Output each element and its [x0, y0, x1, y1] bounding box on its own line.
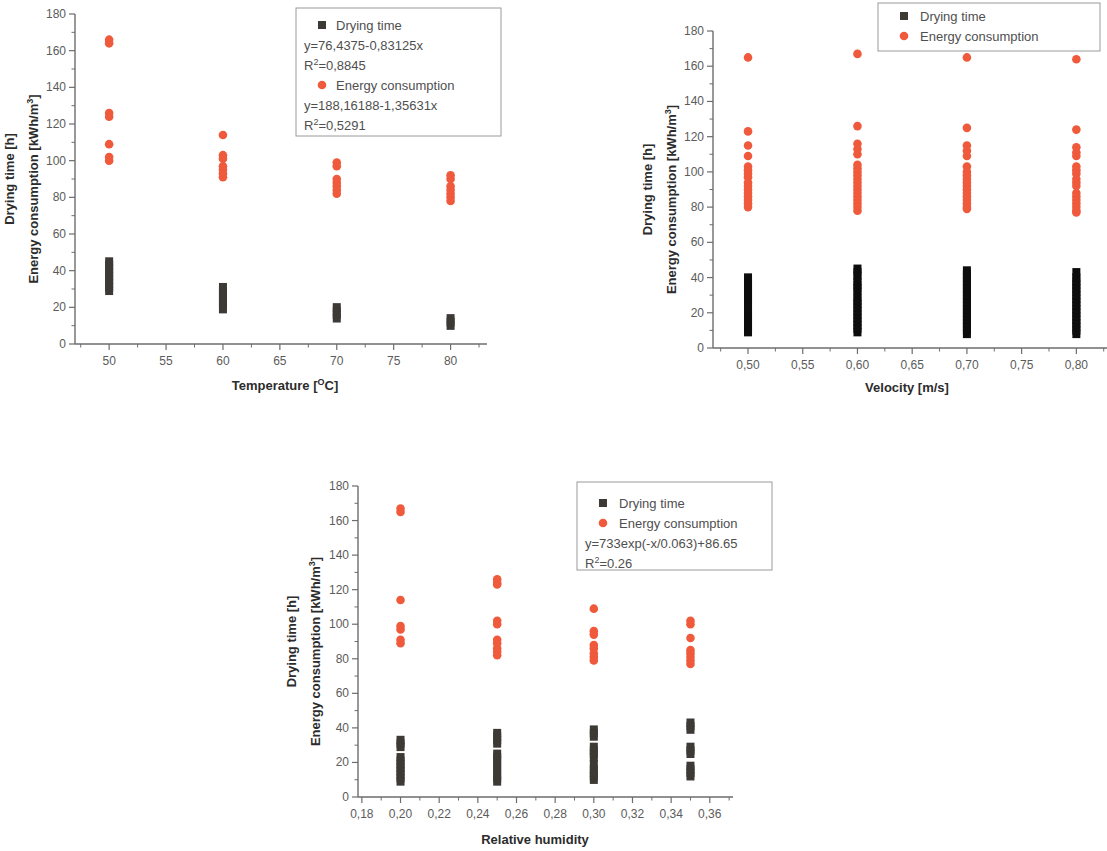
y-axis: 020406080100120140160180	[46, 7, 75, 351]
y-tick-label: 60	[691, 235, 705, 249]
y-tick-label: 120	[46, 117, 66, 131]
data-point	[853, 150, 862, 159]
legend-marker-circle	[900, 32, 909, 41]
legend-label: Energy consumption	[619, 516, 738, 531]
data-point	[219, 131, 228, 140]
y-tick-label: 80	[691, 200, 705, 214]
data-point	[590, 725, 598, 733]
x-tick-label: 0,18	[350, 807, 374, 821]
x-tick-label: 55	[159, 354, 173, 368]
data-point	[744, 203, 753, 212]
y-tick-label: 140	[329, 548, 349, 562]
y-axis-title-right: Energy consumption [kWh/m3]	[663, 105, 679, 294]
data-point	[105, 257, 113, 265]
series-energy-consumption	[744, 50, 1081, 217]
data-point	[853, 206, 862, 215]
y-tick-label: 140	[684, 94, 704, 108]
data-point	[590, 630, 599, 639]
data-point	[590, 743, 598, 751]
y-tick-label: 0	[342, 790, 349, 804]
data-point	[493, 729, 501, 737]
x-tick-label: 80	[444, 354, 458, 368]
data-point	[744, 273, 752, 281]
data-point	[686, 719, 694, 727]
legend-annotation: R2=0,5291	[304, 117, 366, 133]
data-point	[1072, 268, 1080, 276]
y-axis: 020406080100120140160180	[329, 479, 358, 804]
data-point	[963, 205, 972, 214]
y-tick-label: 60	[336, 686, 350, 700]
y-tick-label: 160	[684, 59, 704, 73]
data-point	[1072, 208, 1081, 217]
y-tick-label: 120	[329, 583, 349, 597]
data-point	[493, 750, 501, 758]
x-tick-label: 0,75	[1010, 358, 1034, 372]
data-point	[396, 508, 405, 517]
series-drying-time	[105, 257, 454, 330]
x-axis: 50556065707580	[75, 344, 487, 368]
data-point	[333, 303, 341, 311]
x-tick-label: 0,36	[698, 807, 722, 821]
x-tick-label: 0,22	[428, 807, 452, 821]
data-point	[105, 140, 114, 149]
data-point	[493, 580, 502, 589]
data-point	[686, 762, 694, 770]
y-tick-label: 100	[684, 165, 704, 179]
chart-humidity-canvas: 0204060801001201401601800,180,200,220,24…	[280, 470, 800, 851]
y-axis-title-right: Energy consumption [kWh/m3]	[307, 557, 323, 746]
y-tick-label: 180	[329, 479, 349, 493]
legend-label: Drying time	[920, 9, 986, 24]
y-tick-label: 20	[691, 306, 705, 320]
data-points-layer	[744, 50, 1081, 339]
data-point	[686, 660, 695, 669]
data-point	[219, 283, 227, 291]
x-tick-label: 0,80	[1065, 358, 1089, 372]
y-tick-label: 180	[684, 24, 704, 38]
data-point	[744, 141, 753, 150]
y-axis-title-left: Drying time [h]	[640, 144, 655, 236]
legend: Drying timey=76,4375-0,83125xR2=0,8845En…	[296, 8, 501, 136]
y-tick-label: 100	[46, 154, 66, 168]
data-point	[397, 736, 405, 744]
y-tick-label: 100	[329, 617, 349, 631]
data-point	[446, 175, 455, 184]
legend-annotation: R2=0.26	[585, 555, 632, 571]
data-point	[396, 596, 405, 605]
y-tick-label: 80	[53, 190, 67, 204]
x-tick-label: 70	[330, 354, 344, 368]
x-axis-title: Temperature [OC]	[232, 377, 338, 393]
x-axis-title: Velocity [m/s]	[865, 380, 949, 395]
chart-temperature-canvas: 02040608010012014016018050556065707580Dr…	[0, 0, 520, 400]
data-point	[447, 314, 455, 322]
legend: Drying timeEnergy consumptiony=733exp(-x…	[577, 482, 772, 571]
data-point	[397, 753, 405, 761]
legend-marker-square	[599, 499, 607, 507]
data-point	[744, 127, 753, 136]
data-point	[686, 620, 695, 629]
legend-annotation: R2=0,8845	[304, 57, 366, 73]
data-point	[1072, 152, 1081, 161]
data-point	[853, 122, 862, 131]
y-axis-title-left: Drying time [h]	[2, 133, 17, 225]
x-tick-label: 75	[387, 354, 401, 368]
data-point	[686, 743, 694, 751]
x-tick-label: 0,65	[901, 358, 925, 372]
data-point	[590, 604, 599, 613]
data-point	[1072, 125, 1081, 134]
data-point	[219, 155, 228, 164]
data-point	[105, 112, 114, 121]
legend-annotation: y=188,16188-1,35631x	[304, 98, 438, 113]
data-point	[219, 173, 228, 182]
y-tick-label: 20	[336, 755, 350, 769]
chart-temperature: 02040608010012014016018050556065707580Dr…	[0, 0, 520, 400]
data-point	[744, 53, 753, 62]
legend-marker-square	[900, 12, 908, 20]
data-point	[396, 639, 405, 648]
x-tick-label: 50	[102, 354, 116, 368]
legend-label: Energy consumption	[920, 29, 1039, 44]
chart-velocity-canvas: 0204060801001201401601800,500,550,600,65…	[620, 0, 1107, 400]
legend-annotation: y=76,4375-0,83125x	[304, 38, 423, 53]
y-axis-title-right: Energy consumption [kWh/m3]	[25, 94, 41, 283]
legend-marker-square	[318, 21, 326, 29]
y-tick-label: 40	[691, 271, 705, 285]
